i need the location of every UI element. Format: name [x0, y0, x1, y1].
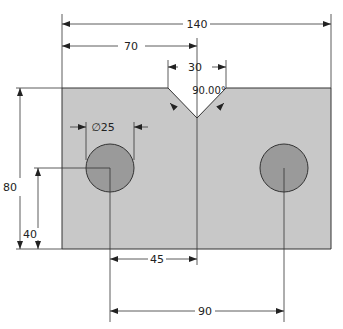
- dim-hole-height: 40: [23, 228, 37, 241]
- dim-overall-height: 80: [3, 181, 17, 194]
- dim-overall-width: 140: [187, 18, 208, 31]
- dim-notch-center: 70: [124, 40, 138, 53]
- dim-notch-width: 30: [188, 61, 202, 74]
- drawing-canvas: 140 70 30 90.00° ∅25 80 40 45 90: [0, 0, 343, 329]
- dim-notch-angle: 90.00°: [192, 85, 226, 96]
- dim-hole-spacing: 90: [198, 305, 212, 318]
- dim-hole-to-center: 45: [150, 253, 164, 266]
- dim-hole-diameter: ∅25: [91, 121, 115, 134]
- engineering-drawing: 140 70 30 90.00° ∅25 80 40 45 90: [0, 0, 343, 329]
